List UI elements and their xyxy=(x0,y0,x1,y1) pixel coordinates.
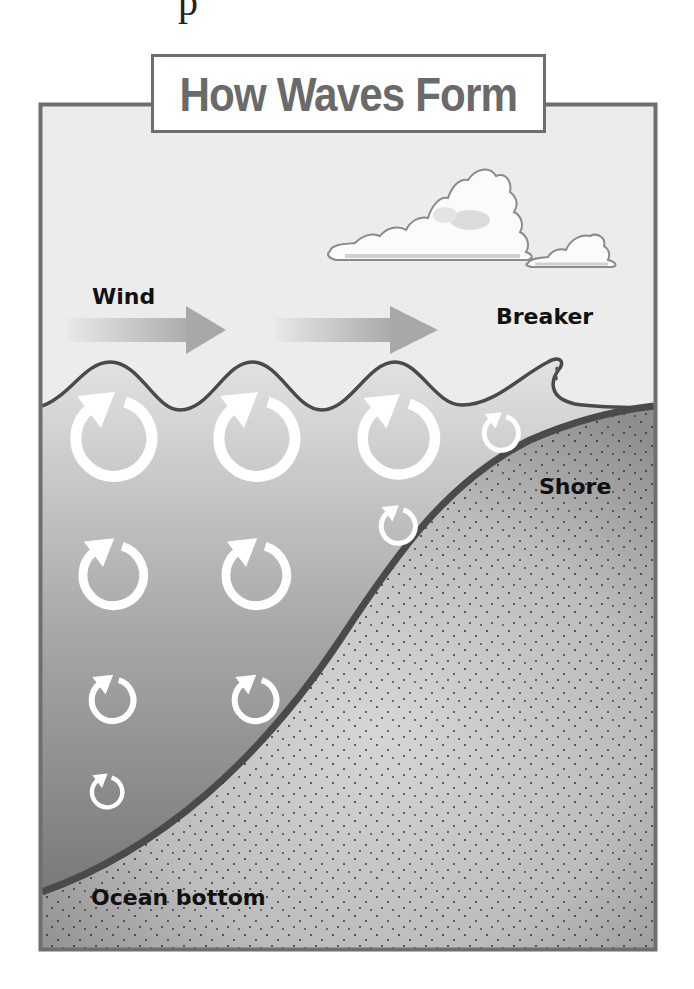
ocean-bottom-label: Ocean bottom xyxy=(91,885,266,910)
title-box: How Waves Form xyxy=(151,54,546,133)
breaker-label: Breaker xyxy=(496,304,593,329)
spray-droplet xyxy=(555,367,559,372)
shore-label: Shore xyxy=(539,474,611,499)
wind-label: Wind xyxy=(92,284,155,309)
spray-droplet xyxy=(554,376,558,381)
diagram-title: How Waves Form xyxy=(180,66,518,122)
